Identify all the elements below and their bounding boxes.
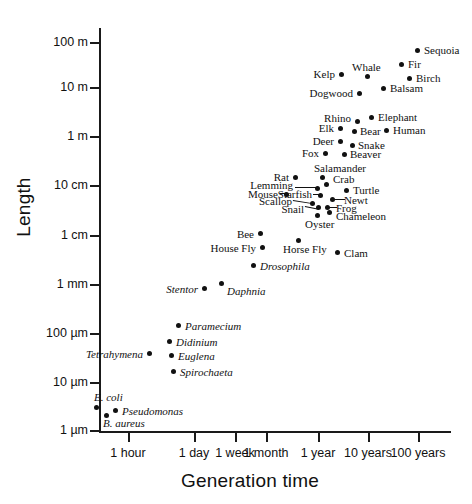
- point-label-beaver: Beaver: [350, 149, 381, 160]
- data-point: [344, 188, 349, 193]
- data-point: [323, 151, 328, 156]
- data-point: [219, 281, 224, 286]
- y-tick-mark: [90, 235, 99, 237]
- y-tick-mark: [90, 333, 99, 335]
- x-tick-label-100-years: 100 years: [376, 447, 460, 460]
- data-point: [293, 175, 298, 180]
- point-label-bear: Bear: [360, 126, 381, 137]
- y-tick-mark: [90, 430, 99, 432]
- point-label-daphnia: Daphnia: [227, 286, 266, 297]
- y-tick-label-1um: 1 µm: [26, 424, 88, 436]
- data-point: [399, 62, 404, 67]
- data-point: [176, 323, 181, 328]
- point-label-elephant: Elephant: [378, 112, 417, 123]
- data-point: [202, 286, 207, 291]
- point-label-elk: Elk: [319, 123, 334, 134]
- point-label-deer: Deer: [313, 136, 334, 147]
- y-tick-label-10um: 10 µm: [26, 376, 88, 388]
- y-tick-label-1cm: 1 cm: [26, 229, 88, 241]
- y-tick-label-100um: 100 µm: [26, 327, 88, 339]
- x-axis-line: [99, 431, 451, 433]
- y-tick-mark: [90, 284, 99, 286]
- y-axis-title: Length: [13, 157, 35, 257]
- data-point: [258, 231, 263, 236]
- y-tick-label-100m: 100 m: [26, 36, 88, 48]
- y-tick-mark: [90, 382, 99, 384]
- data-point: [327, 210, 332, 215]
- point-label-euglena: Euglena: [178, 351, 215, 362]
- point-label-fir: Fir: [408, 59, 421, 70]
- point-label-balsam: Balsam: [390, 83, 423, 94]
- y-tick-mark: [90, 136, 99, 138]
- data-point: [365, 74, 370, 79]
- point-label-pseudomonas: Pseudomonas: [122, 406, 183, 417]
- data-point: [169, 353, 174, 358]
- point-label-horsefly: Horse Fly: [283, 244, 327, 255]
- data-point: [167, 339, 172, 344]
- y-axis-line: [99, 28, 101, 432]
- data-point: [147, 351, 152, 356]
- data-point: [369, 115, 374, 120]
- x-tick-mark: [194, 433, 196, 442]
- point-label-oyster: Oyster: [305, 219, 334, 230]
- scatter-plot-figure: Length Generation time 100 m 10 m 1 m 10…: [0, 0, 472, 504]
- point-label-tetrahymena: Tetrahymena: [86, 349, 143, 360]
- y-tick-mark: [90, 42, 99, 44]
- x-tick-mark: [266, 433, 268, 442]
- data-point: [352, 129, 357, 134]
- data-point: [342, 152, 347, 157]
- y-tick-label-10m: 10 m: [26, 81, 88, 93]
- point-label-ecoli: E. coli: [94, 392, 123, 403]
- x-axis-title: Generation time: [160, 470, 340, 492]
- point-label-human: Human: [393, 125, 425, 136]
- point-label-didinium: Didinium: [176, 337, 218, 348]
- leader-line: [313, 194, 321, 195]
- data-point: [315, 213, 320, 218]
- data-point: [320, 175, 325, 180]
- x-tick-mark: [235, 433, 237, 442]
- data-point: [357, 91, 362, 96]
- y-tick-mark: [90, 87, 99, 89]
- y-tick-label-10cm: 10 cm: [26, 179, 88, 191]
- point-label-whale: Whale: [352, 62, 381, 73]
- data-point: [350, 143, 355, 148]
- data-point: [335, 250, 340, 255]
- point-label-fox: Fox: [302, 148, 319, 159]
- data-point: [296, 238, 301, 243]
- data-point: [338, 126, 343, 131]
- point-label-kelp: Kelp: [314, 69, 335, 80]
- point-label-drosophila: Drosophila: [260, 261, 310, 272]
- point-label-chameleon: Chameleon: [336, 211, 386, 222]
- data-point: [113, 408, 118, 413]
- point-label-snail: Snail: [281, 204, 304, 215]
- point-label-dogwood: Dogwood: [310, 88, 353, 99]
- data-point: [171, 369, 176, 374]
- x-tick-mark: [128, 433, 130, 442]
- point-label-stentor: Stentor: [166, 284, 198, 295]
- x-tick-mark: [318, 433, 320, 442]
- y-tick-label-1m: 1 m: [26, 130, 88, 142]
- point-label-baureus: B. aureus: [103, 418, 145, 429]
- data-point: [324, 182, 329, 187]
- data-point: [384, 128, 389, 133]
- y-tick-mark: [90, 185, 99, 187]
- data-point: [355, 119, 360, 124]
- x-tick-mark: [368, 433, 370, 442]
- data-point: [415, 48, 420, 53]
- point-label-bee: Bee: [237, 229, 254, 240]
- data-point: [338, 139, 343, 144]
- data-point: [339, 72, 344, 77]
- x-tick-mark: [418, 433, 420, 442]
- point-label-sequoia: Sequoia: [424, 45, 459, 56]
- data-point: [407, 76, 412, 81]
- data-point: [94, 405, 99, 410]
- data-point: [381, 86, 386, 91]
- y-tick-label-1mm: 1 mm: [26, 278, 88, 290]
- point-label-paramecium: Paramecium: [185, 321, 241, 332]
- point-label-spirochaeta: Spirochaeta: [180, 367, 233, 378]
- x-tick-label-1-hour: 1 hour: [88, 447, 168, 460]
- data-point: [260, 245, 265, 250]
- data-point: [251, 263, 256, 268]
- point-label-clam: Clam: [344, 248, 368, 259]
- point-label-housefly: House Fly: [210, 243, 256, 254]
